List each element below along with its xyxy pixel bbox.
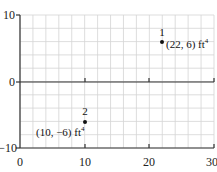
data-point-2: 2 (10, −6) ft4 <box>36 105 88 139</box>
point-coord-label: (22, 6) ft4 <box>166 37 209 51</box>
x-tick-label-30: 30 <box>206 155 217 169</box>
point-id-label: 2 <box>82 105 88 117</box>
x-tick-label-0: 0 <box>17 155 23 169</box>
x-tick-label-20: 20 <box>143 155 155 169</box>
point-id-label: 1 <box>159 26 165 38</box>
point-marker <box>160 40 164 44</box>
x-tick-label-10: 10 <box>79 155 91 169</box>
coord-text: (22, 6) ft <box>166 38 205 51</box>
point-coord-label: (10, −6) ft4 <box>36 125 85 139</box>
unit-exponent: 4 <box>81 125 85 133</box>
y-tick-label-0: 0 <box>9 75 15 89</box>
y-tick-label-neg10: −10 <box>0 141 17 155</box>
coord-text: (10, −6) ft <box>36 126 81 139</box>
unit-exponent: 4 <box>205 37 209 45</box>
scatter-chart: 10 0 −10 0 10 20 30 1 (22, 6) ft4 2 (10,… <box>0 0 217 172</box>
y-tick-label-10: 10 <box>3 8 15 22</box>
point-marker <box>83 120 87 124</box>
